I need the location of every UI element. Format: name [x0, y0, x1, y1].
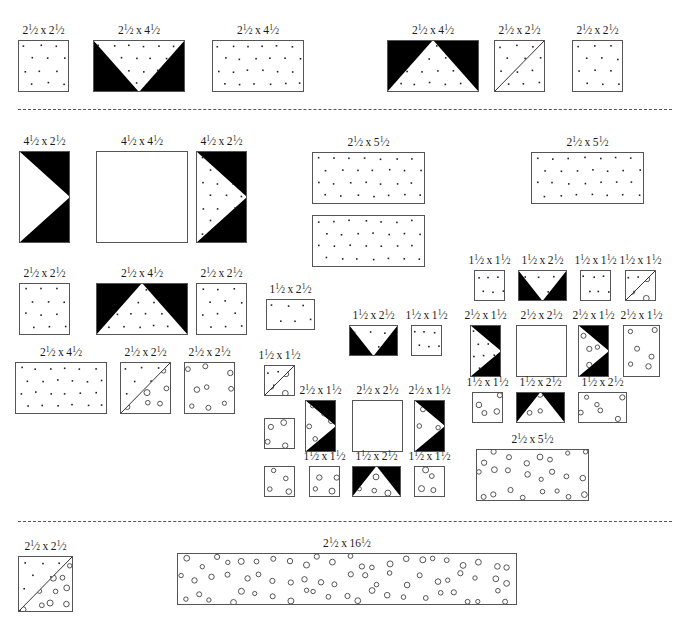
- fabric-piece: [518, 270, 567, 301]
- fabric-piece: [264, 466, 295, 497]
- fabric-piece: [184, 362, 235, 414]
- fabric-piece: [476, 449, 589, 501]
- fabric-piece: [18, 556, 73, 612]
- fabric-piece: [96, 151, 188, 243]
- fabric-piece: [414, 466, 445, 497]
- piece-size-label: 21⁄2 x 51⁄2: [473, 434, 593, 445]
- fabric-piece: [93, 40, 185, 92]
- piece-size-label: 11⁄2 x 21⁄2: [231, 284, 351, 295]
- fabric-piece: [531, 152, 644, 204]
- fabric-piece: [352, 400, 403, 452]
- divider-bottom: [18, 521, 672, 522]
- fabric-piece: [312, 215, 425, 267]
- fabric-piece: [349, 325, 398, 356]
- piece-size-label: 21⁄2 x 21⁄2: [162, 268, 282, 279]
- fabric-piece: [578, 392, 627, 423]
- piece-size-label: 11⁄2 x 21⁄2: [543, 377, 663, 388]
- fabric-piece: [623, 325, 660, 377]
- divider-top: [18, 109, 672, 110]
- fabric-piece: [266, 299, 315, 330]
- fabric-piece: [494, 40, 545, 92]
- piece-size-label: 21⁄2 x 51⁄2: [309, 137, 429, 148]
- fabric-piece: [580, 270, 611, 301]
- fabric-piece: [309, 466, 340, 497]
- fabric-piece: [352, 466, 401, 497]
- fabric-piece: [578, 325, 609, 377]
- fabric-piece: [96, 283, 188, 335]
- piece-size-label: 11⁄2 x 11⁄2: [220, 350, 340, 361]
- fabric-piece: [19, 151, 70, 243]
- fabric-piece: [474, 270, 505, 301]
- fabric-piece: [15, 362, 107, 414]
- fabric-piece: [305, 400, 336, 452]
- cutting-diagram-canvas: 21⁄2 x 21⁄221⁄2 x 41⁄221⁄2 x 41⁄221⁄2 x …: [0, 0, 674, 627]
- fabric-piece: [472, 392, 503, 423]
- piece-size-label: 11⁄2 x 11⁄2: [581, 255, 674, 266]
- piece-size-label: 41⁄2 x 21⁄2: [162, 136, 282, 147]
- fabric-piece: [212, 40, 304, 92]
- piece-size-label: 21⁄2 x 41⁄2: [79, 25, 199, 36]
- piece-size-label: 21⁄2 x 11⁄2: [582, 310, 674, 321]
- fabric-piece: [312, 152, 425, 204]
- fabric-piece: [264, 418, 295, 449]
- fabric-piece: [120, 362, 171, 414]
- piece-size-label: 21⁄2 x 21⁄2: [538, 25, 658, 36]
- fabric-piece: [572, 40, 623, 92]
- piece-size-label: 21⁄2 x 21⁄2: [0, 541, 106, 552]
- fabric-piece: [387, 40, 479, 92]
- piece-size-label: 11⁄2 x 11⁄2: [370, 451, 490, 462]
- fabric-piece: [18, 40, 69, 92]
- piece-size-label: 21⁄2 x 51⁄2: [528, 137, 648, 148]
- fabric-piece: [625, 270, 656, 301]
- fabric-piece: [470, 325, 501, 377]
- fabric-piece: [411, 325, 442, 356]
- fabric-piece: [19, 283, 70, 335]
- fabric-piece: [414, 400, 445, 452]
- fabric-piece: [516, 392, 565, 423]
- fabric-piece: [177, 553, 517, 605]
- piece-size-label: 21⁄2 x 41⁄2: [198, 25, 318, 36]
- fabric-piece: [516, 325, 567, 377]
- piece-size-label: 21⁄2 x 161⁄2: [287, 538, 407, 549]
- fabric-piece: [196, 151, 247, 243]
